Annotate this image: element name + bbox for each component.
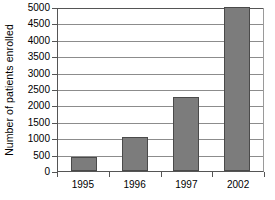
bar-chart: Number of patients enrolled 050010001500… — [0, 0, 275, 200]
x-axis-tick-marks — [57, 172, 264, 177]
y-axis-tick-label: 3500 — [14, 52, 50, 62]
x-axis-tick-mark — [264, 172, 265, 177]
x-axis-tick-mark — [212, 172, 213, 177]
bar-slot — [161, 8, 212, 171]
y-axis-tick-label: 4500 — [14, 19, 50, 29]
y-axis-tick-label: 1000 — [14, 134, 50, 144]
x-axis-tick-label: 1995 — [57, 179, 109, 195]
bar-2002[interactable] — [224, 7, 250, 171]
bar-slot — [58, 8, 109, 171]
y-axis-tick-labels: 0500100015002000250030003500400045005000 — [14, 0, 50, 180]
y-axis-tick-label: 500 — [14, 151, 50, 161]
plot-area — [57, 8, 264, 172]
x-axis-tick-label: 1997 — [161, 179, 213, 195]
y-axis-tick-label: 4000 — [14, 36, 50, 46]
y-axis-tick-label: 3000 — [14, 69, 50, 79]
x-axis-tick-mark — [161, 172, 162, 177]
y-axis-tick-label: 0 — [14, 167, 50, 177]
x-axis-tick-mark — [109, 172, 110, 177]
bar-1996[interactable] — [122, 137, 148, 171]
bar-1997[interactable] — [173, 97, 199, 171]
y-axis-tick-label: 1500 — [14, 118, 50, 128]
bar-slot — [109, 8, 160, 171]
bar-slot — [212, 8, 263, 171]
y-axis-tick-label: 2500 — [14, 85, 50, 95]
y-axis-tick-label: 2000 — [14, 101, 50, 111]
x-axis-tick-label: 2002 — [212, 179, 264, 195]
x-axis-tick-mark — [57, 172, 58, 177]
bars-layer — [58, 8, 263, 171]
x-axis-tick-label: 1996 — [109, 179, 161, 195]
x-axis-tick-labels: 1995199619972002 — [57, 179, 264, 195]
y-axis-tick-label: 5000 — [14, 3, 50, 13]
bar-1995[interactable] — [71, 157, 97, 171]
